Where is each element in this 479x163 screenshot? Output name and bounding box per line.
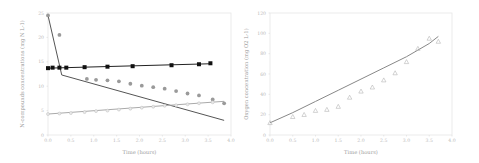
circle-marker [174,89,178,93]
triangle-marker [370,85,374,89]
circle-marker [58,33,62,37]
y-tick-label: 0 [41,133,44,138]
circle-marker [163,87,167,91]
circle-marker [47,113,50,116]
square-marker [64,66,68,70]
y-tick-label: 120 [257,11,266,16]
left-chart-panel: 0.00.51.01.52.02.53.03.54.00510152025Tim… [0,0,240,163]
square-marker [208,61,212,65]
y-tick-label: 15 [38,59,44,64]
y-tick-label: 10 [38,84,44,89]
x-axis-label: Time (hours) [123,149,157,155]
x-tick-label: 2.5 [380,138,387,143]
square-marker [46,66,50,70]
x-tick-label: 1.0 [312,138,319,143]
y-tick-label: 20 [260,112,266,117]
triangle-marker [325,107,329,111]
y-tick-label: 40 [260,92,266,97]
right-chart-panel: 0.00.51.01.52.02.53.03.54.00204060801001… [240,0,479,163]
x-tick-label: 3.5 [426,138,433,143]
x-tick-label: 2.0 [136,138,143,143]
circle-marker [85,77,89,81]
square-marker [131,64,135,68]
x-tick-label: 3.5 [204,138,211,143]
x-tick-label: 1.5 [113,138,120,143]
x-tick-label: 1.5 [335,138,342,143]
plot-frame [270,13,452,135]
y-axis-label: N-compounds concentrations (mg N L-1) [19,20,26,127]
circle-marker [163,104,166,107]
x-tick-label: 3.0 [403,138,410,143]
x-tick-label: 2.0 [357,138,364,143]
measured-gray-circles [46,14,226,106]
triangle-marker [427,36,431,40]
x-axis-label: Time (hours) [344,149,378,155]
y-tick-label: 80 [260,51,266,56]
model-black-line [48,64,210,68]
model-line [270,36,438,122]
circle-marker [197,102,200,105]
circle-marker [140,84,144,88]
square-marker [170,63,174,67]
x-tick-label: 0.0 [44,138,51,143]
measured-triangles [268,36,441,124]
y-tick-label: 60 [260,72,266,77]
y-tick-label: 0 [263,133,266,138]
x-tick-label: 4.0 [448,138,455,143]
y-tick-label: 20 [38,35,44,40]
circle-marker [106,78,110,82]
circle-marker [151,85,155,89]
circle-marker [222,101,226,105]
triangle-marker [382,78,386,82]
circle-marker [83,111,86,114]
triangle-marker [404,60,408,64]
circle-marker [69,112,72,115]
circle-marker [197,94,201,98]
circle-marker [186,92,190,96]
n-compounds-chart: 0.00.51.01.52.02.53.03.54.00510152025Tim… [0,0,240,163]
x-tick-label: 0.5 [67,138,74,143]
circle-marker [186,103,189,106]
measured-light-circles [47,101,215,116]
y-tick-label: 5 [41,108,44,113]
circle-marker [129,107,132,110]
square-marker [105,65,109,69]
triangle-marker [359,89,363,93]
triangle-marker [291,115,295,119]
circle-marker [152,105,155,108]
circle-marker [140,106,143,109]
circle-marker [95,110,98,113]
x-tick-label: 1.0 [90,138,97,143]
triangle-marker [302,112,306,116]
y-axis-label: Oxygen concentration (mg O2 L-1) [243,28,250,119]
square-marker [51,66,55,70]
x-tick-label: 4.0 [227,138,234,143]
circle-marker [117,108,120,111]
square-marker [197,62,201,66]
x-tick-label: 0.5 [289,138,296,143]
y-tick-label: 25 [38,11,44,16]
triangle-marker [347,95,351,99]
square-marker [57,66,61,70]
triangle-marker [436,39,440,43]
circle-marker [211,101,214,104]
square-marker [83,65,87,69]
triangle-marker [336,104,340,108]
circle-marker [128,82,132,86]
circle-marker [46,14,50,18]
circle-marker [175,104,178,107]
x-tick-label: 2.5 [159,138,166,143]
triangle-marker [393,71,397,75]
y-tick-label: 100 [257,31,266,36]
x-tick-label: 3.0 [182,138,189,143]
triangle-marker [313,108,317,112]
x-tick-label: 0.0 [266,138,273,143]
oxygen-chart: 0.00.51.01.52.02.53.03.54.00204060801001… [240,0,479,163]
plot-frame [48,13,231,135]
circle-marker [94,78,98,82]
circle-marker [58,112,61,115]
circle-marker [117,79,121,83]
circle-marker [106,109,109,112]
